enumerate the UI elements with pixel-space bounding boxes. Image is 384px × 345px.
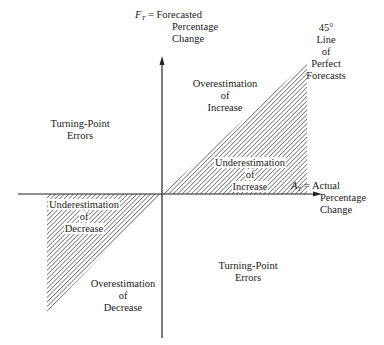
- region-text: of: [78, 290, 168, 302]
- region-text: Errors: [208, 272, 288, 284]
- region-text: Underestimation: [214, 157, 286, 168]
- region-turning-point-lower-right: Turning-Point Errors: [208, 260, 288, 284]
- region-underestimation-decrease: Underestimation of Decrease: [44, 199, 124, 235]
- perfect-forecast-label: 45° Line of Perfect Forecasts: [296, 22, 356, 82]
- y-axis-label-line3: Change: [172, 33, 204, 45]
- y-axis-arrowhead: [160, 56, 165, 65]
- region-text: Increase: [180, 102, 270, 114]
- perfect-line-text-4: Perfect: [296, 58, 356, 70]
- region-text: Decrease: [64, 223, 104, 234]
- y-axis-label-line2: Percentage: [172, 21, 218, 33]
- region-text: Turning-Point: [40, 118, 120, 130]
- region-text: Errors: [40, 130, 120, 142]
- region-text: Underestimation: [48, 199, 120, 210]
- region-text: Overestimation: [180, 78, 270, 90]
- y-axis-label-line1: = Forecasted: [145, 9, 202, 20]
- region-overestimation-decrease: Overestimation of Decrease: [78, 278, 168, 314]
- perfect-line-text-1: 45°: [296, 22, 356, 34]
- region-text: of: [180, 90, 270, 102]
- x-axis-label-line2: Percentage: [320, 192, 366, 204]
- x-axis-label-line3: Change: [320, 204, 352, 216]
- region-text: of: [79, 211, 90, 222]
- region-overestimation-increase: Overestimation of Increase: [180, 78, 270, 114]
- perfect-line-text-2: Line: [296, 34, 356, 46]
- perfect-line-text-5: Forecasts: [296, 70, 356, 82]
- region-text: Overestimation: [78, 278, 168, 290]
- region-turning-point-upper-left: Turning-Point Errors: [40, 118, 120, 142]
- x-axis-label-line1: = Actual: [301, 180, 340, 191]
- region-underestimation-increase: Underestimation of Increase: [202, 157, 298, 193]
- perfect-line-text-3: of: [296, 46, 356, 58]
- region-text: Decrease: [78, 302, 168, 314]
- region-text: of: [245, 169, 256, 180]
- region-text: Increase: [232, 181, 269, 192]
- region-text: Turning-Point: [208, 260, 288, 272]
